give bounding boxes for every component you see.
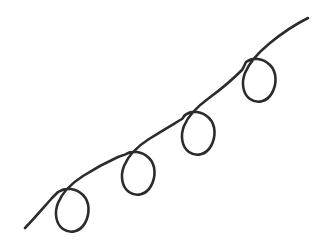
drawing-canvas <box>0 0 324 247</box>
looping-curve-svg <box>0 0 324 247</box>
canvas-background <box>0 0 324 247</box>
